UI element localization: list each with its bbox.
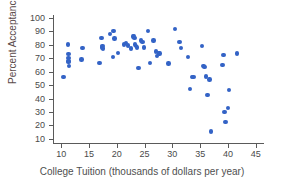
data-point	[132, 36, 136, 40]
data-point	[220, 63, 224, 67]
x-tick-label: 45	[244, 149, 268, 160]
data-point	[177, 40, 181, 44]
y-tick-label: 80	[19, 40, 45, 50]
y-tick-label: 50	[19, 80, 45, 90]
y-tick-label: 100	[19, 13, 45, 23]
x-tick-mark	[228, 144, 229, 148]
y-tick-label: 20	[19, 120, 45, 130]
data-point	[166, 61, 170, 65]
y-tick-label: 90	[19, 26, 45, 36]
data-point	[205, 93, 209, 97]
data-point	[151, 38, 155, 42]
y-tick-mark	[49, 85, 53, 86]
data-point	[140, 40, 144, 44]
x-axis-line	[53, 143, 264, 144]
x-tick-mark	[172, 144, 173, 148]
x-tick-label: 35	[188, 149, 212, 160]
x-tick-mark	[117, 144, 118, 148]
x-tick-label: 20	[105, 149, 129, 160]
data-point	[207, 77, 211, 81]
plot-area	[53, 15, 264, 143]
y-tick-mark	[49, 18, 53, 19]
x-tick-mark	[61, 144, 62, 148]
data-point	[111, 29, 115, 33]
y-tick-mark	[49, 125, 53, 126]
data-point	[116, 51, 120, 55]
data-point	[157, 51, 161, 55]
x-tick-mark	[256, 144, 257, 148]
scatter-plot-figure: 1015202530354045 102030405060708090100 C…	[0, 0, 284, 188]
y-tick-mark	[49, 31, 53, 32]
y-tick-mark	[49, 99, 53, 100]
x-axis-title: College Tuition (thousands of dollars pe…	[0, 166, 284, 177]
data-point	[101, 46, 105, 50]
x-tick-mark	[145, 144, 146, 148]
data-point	[221, 53, 225, 57]
data-point	[112, 36, 116, 40]
x-tick-mark	[200, 144, 201, 148]
y-tick-mark	[49, 58, 53, 59]
data-point	[142, 45, 146, 49]
y-tick-mark	[49, 139, 53, 140]
x-tick-label: 25	[133, 149, 157, 160]
data-point	[191, 75, 195, 79]
x-tick-label: 15	[77, 149, 101, 160]
y-tick-label: 10	[19, 134, 45, 144]
data-point	[61, 75, 65, 79]
data-point	[111, 55, 115, 59]
y-tick-label: 60	[19, 67, 45, 77]
y-axis-title: Percent Acceptance	[7, 0, 18, 100]
data-point	[66, 42, 70, 46]
data-point	[179, 46, 183, 50]
x-tick-mark	[89, 144, 90, 148]
data-point	[235, 51, 239, 55]
y-tick-mark	[49, 72, 53, 73]
data-point	[79, 57, 83, 61]
y-tick-mark	[49, 112, 53, 113]
y-tick-label: 70	[19, 53, 45, 63]
y-tick-label: 40	[19, 94, 45, 104]
x-tick-label: 30	[160, 149, 184, 160]
data-point	[209, 129, 213, 133]
data-point	[186, 55, 190, 59]
data-point	[99, 36, 103, 40]
data-point	[202, 65, 206, 69]
data-point	[222, 110, 226, 114]
y-tick-mark	[49, 45, 53, 46]
data-point	[135, 45, 139, 49]
x-tick-label: 40	[216, 149, 240, 160]
data-point	[80, 46, 84, 50]
y-tick-label: 30	[19, 107, 45, 117]
y-axis-line	[53, 15, 54, 144]
data-point	[97, 61, 101, 65]
x-tick-label: 10	[49, 149, 73, 160]
